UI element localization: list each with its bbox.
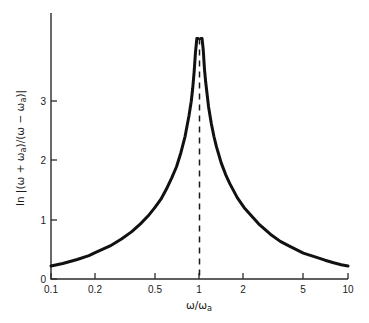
x-tick-label-4: 2 — [240, 284, 246, 295]
y-tick-label-2: 2 — [32, 155, 46, 166]
figure-container: 0.1 0.2 0.5 1 2 5 10 0 1 2 3 ω/ωa ln |(ω… — [0, 0, 369, 323]
x-tick-label-0: 0.1 — [44, 284, 58, 295]
x-axis-title: ω/ωa — [186, 299, 212, 314]
y-axis-title-text: ln |(ω + ω — [14, 152, 26, 206]
y-tick-label-3: 3 — [32, 96, 46, 107]
x-axis-title-subscript: a — [207, 303, 212, 313]
y-axis-title-subscript-2: a — [18, 98, 28, 103]
data-curve-left-branch — [51, 39, 198, 267]
y-axis-title: ln |(ω + ωa)/(ω − ωa)| — [14, 90, 29, 206]
y-axis-title-subscript-1: a — [18, 147, 28, 152]
x-axis-title-text: ω/ω — [186, 299, 207, 311]
x-tick-label-1: 0.2 — [88, 284, 102, 295]
y-tick-label-0: 0 — [32, 274, 46, 285]
x-tick-label-3: 1 — [196, 284, 202, 295]
y-tick-label-1: 1 — [32, 215, 46, 226]
y-axis-title-text-3: )| — [14, 90, 26, 98]
y-tick-marks — [51, 101, 57, 279]
data-curve-right-branch — [201, 39, 348, 267]
y-axis-title-text-2: )/(ω − ω — [14, 103, 26, 148]
x-tick-label-2: 0.5 — [148, 284, 162, 295]
plot-canvas — [0, 0, 369, 323]
x-tick-label-5: 5 — [300, 284, 306, 295]
x-tick-label-6: 10 — [342, 284, 353, 295]
